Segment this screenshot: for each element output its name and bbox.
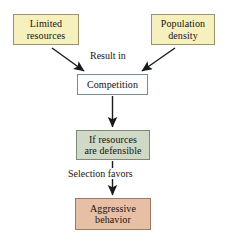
node-population-density: Population density xyxy=(151,14,215,45)
arrow-limited-resources-to-competition xyxy=(52,48,84,71)
edge-label-selection-favors: Selection favors xyxy=(66,168,135,179)
node-limited-resources-line-1: Limited xyxy=(30,18,62,30)
node-competition: Competition xyxy=(77,74,148,95)
node-if-resources-defensible-line-1: If resources xyxy=(89,134,137,146)
edge-label-result-in: Result in xyxy=(88,50,128,61)
diagram-canvas: Limited resources Population density Com… xyxy=(0,0,226,242)
node-limited-resources: Limited resources xyxy=(13,14,79,45)
node-population-density-line-2: density xyxy=(168,30,198,42)
node-if-resources-defensible-line-2: are defensible xyxy=(84,145,141,157)
node-aggressive-behavior-line-2: behavior xyxy=(95,214,131,226)
node-aggressive-behavior-line-1: Aggressive xyxy=(90,203,136,215)
node-if-resources-defensible: If resources are defensible xyxy=(76,130,150,160)
node-limited-resources-line-2: resources xyxy=(27,30,66,42)
arrow-population-density-to-competition xyxy=(142,48,175,71)
node-competition-line-1: Competition xyxy=(87,79,138,91)
node-aggressive-behavior: Aggressive behavior xyxy=(75,198,151,230)
node-population-density-line-1: Population xyxy=(161,18,205,30)
